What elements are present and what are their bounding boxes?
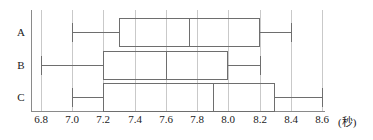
whisker-high-c: [275, 97, 322, 98]
x-tick-label-8.6: 8.6: [315, 113, 329, 125]
x-tick-label-7.2: 7.2: [96, 113, 110, 125]
whisker-low-c: [72, 97, 103, 98]
x-tick-label-7.0: 7.0: [65, 113, 79, 125]
x-tick-label-8.4: 8.4: [284, 113, 298, 125]
x-tick-label-6.8: 6.8: [34, 113, 48, 125]
whisker-low-a: [72, 32, 119, 33]
category-label-b: B: [14, 59, 28, 71]
whisker-cap-min-a: [72, 23, 73, 42]
x-axis-unit-label: (秒): [338, 113, 356, 129]
x-tick-label-7.6: 7.6: [159, 113, 173, 125]
x-tick-label-8.2: 8.2: [253, 113, 267, 125]
whisker-low-b: [41, 65, 103, 66]
whisker-cap-max-a: [291, 23, 292, 42]
category-label-c: C: [14, 91, 28, 103]
plot-area: 6.87.07.27.47.67.88.08.28.48.6 (秒) ABC: [0, 0, 373, 140]
box-c: [103, 83, 275, 112]
x-tick-label-7.8: 7.8: [190, 113, 204, 125]
whisker-high-b: [228, 65, 260, 66]
category-label-a: A: [14, 26, 28, 38]
y-axis-line: [31, 10, 32, 112]
median-a: [189, 18, 190, 47]
whisker-high-a: [260, 32, 291, 33]
median-c: [213, 83, 214, 112]
boxplot-chart: 6.87.07.27.47.67.88.08.28.48.6 (秒) ABC: [0, 0, 373, 140]
whisker-cap-max-c: [322, 88, 323, 107]
x-tick-label-7.4: 7.4: [128, 113, 142, 125]
whisker-cap-min-b: [41, 56, 42, 75]
x-tick-label-8.0: 8.0: [221, 113, 235, 125]
whisker-cap-min-c: [72, 88, 73, 107]
median-b: [166, 51, 167, 80]
whisker-cap-max-b: [260, 56, 261, 75]
